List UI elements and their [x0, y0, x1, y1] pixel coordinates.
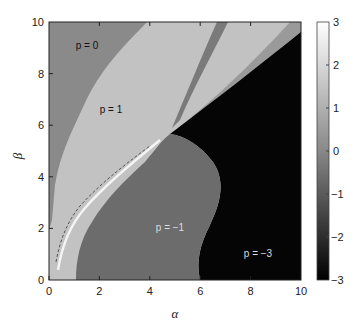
chart-figure: 0 2 4 6 8 10 α 0 2 4 6 8 10 β p = 0 p = … [0, 0, 361, 329]
cbar-tick-3: 3 [333, 16, 339, 28]
y-axis: 0 2 4 6 8 10 β [10, 16, 53, 286]
heatmap-area [49, 22, 301, 280]
x-tick-4: 4 [147, 285, 153, 297]
x-tick-2: 2 [96, 285, 102, 297]
cbar-tick-1: 1 [333, 102, 339, 114]
cbar-tick-m3: −3 [331, 274, 344, 286]
y-tick-8: 8 [38, 68, 44, 80]
x-axis-label: α [172, 306, 180, 321]
y-tick-0: 0 [38, 274, 44, 286]
cbar-tick-2: 2 [333, 59, 339, 71]
y-tick-10: 10 [32, 16, 44, 28]
label-pm3: p = −3 [244, 248, 273, 259]
x-tick-10: 10 [295, 285, 307, 297]
y-tick-6: 6 [38, 119, 44, 131]
y-tick-4: 4 [38, 171, 44, 183]
cbar-tick-m2: −2 [331, 231, 344, 243]
y-tick-2: 2 [38, 222, 44, 234]
x-tick-0: 0 [46, 285, 52, 297]
y-axis-label: β [10, 152, 25, 160]
label-p1: p = 1 [100, 104, 123, 115]
cbar-tick-0: 0 [333, 145, 339, 157]
cbar-tick-m1: −1 [331, 188, 344, 200]
x-tick-6: 6 [197, 285, 203, 297]
x-tick-8: 8 [248, 285, 254, 297]
label-p0: p = 0 [76, 40, 99, 51]
colorbar: 3 2 1 0 −1 −2 −3 [317, 16, 344, 286]
label-pm1: p = −1 [156, 222, 185, 233]
